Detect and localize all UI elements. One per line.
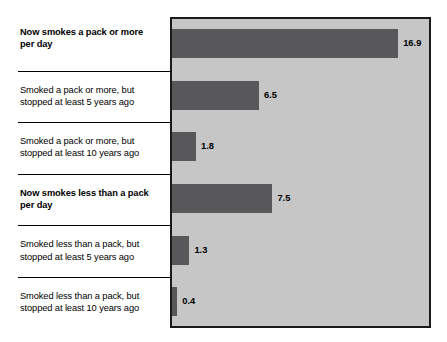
bar-value-label: 1.8 [201, 141, 214, 152]
chart-row: Now smokes a pack or moreper day16.9 [0, 19, 447, 71]
category-label-line: stopped at least 5 years ago [20, 96, 168, 108]
row-divider [18, 225, 172, 226]
category-label-line: Now smokes less than a pack [20, 187, 168, 199]
chart-row: Smoked a pack or more, butstopped at lea… [0, 122, 447, 174]
bar [172, 29, 398, 58]
category-label: Smoked less than a pack, butstopped at l… [20, 238, 168, 262]
chart-row: Smoked less than a pack, butstopped at l… [0, 225, 447, 277]
category-label: Now smokes less than a packper day [20, 187, 168, 211]
bar-value-label: 0.4 [182, 296, 195, 307]
category-label: Smoked a pack or more, butstopped at lea… [20, 84, 168, 108]
category-label: Smoked a pack or more, butstopped at lea… [20, 135, 168, 159]
category-label-line: Smoked a pack or more, but [20, 84, 168, 96]
bar [172, 287, 177, 316]
bar [172, 81, 259, 110]
bar [172, 236, 189, 265]
row-divider [18, 174, 172, 175]
category-label: Smoked less than a pack, butstopped at l… [20, 290, 168, 314]
row-divider [18, 122, 172, 123]
bar [172, 132, 196, 161]
bar-value-label: 16.9 [403, 38, 421, 49]
category-label-line: Smoked less than a pack, but [20, 238, 168, 250]
bar [172, 184, 272, 213]
chart-row: Now smokes less than a packper day7.5 [0, 174, 447, 226]
category-label-line: per day [20, 38, 168, 50]
bar-value-label: 1.3 [194, 245, 207, 256]
category-label-line: per day [20, 199, 168, 211]
row-divider [18, 277, 172, 278]
category-label-line: Smoked a pack or more, but [20, 135, 168, 147]
row-divider [18, 71, 172, 72]
bar-value-label: 6.5 [264, 90, 277, 101]
chart-row: Smoked less than a pack, butstopped at l… [0, 277, 447, 329]
category-label: Now smokes a pack or moreper day [20, 26, 168, 50]
category-label-line: Now smokes a pack or more [20, 26, 168, 38]
bar-value-label: 7.5 [277, 193, 290, 204]
horizontal-bar-chart: Now smokes a pack or moreper day16.9Smok… [0, 0, 447, 342]
category-label-line: Smoked less than a pack, but [20, 290, 168, 302]
category-label-line: stopped at least 10 years ago [20, 147, 168, 159]
chart-row: Smoked a pack or more, butstopped at lea… [0, 71, 447, 123]
category-label-line: stopped at least 5 years ago [20, 251, 168, 263]
category-label-line: stopped at least 10 years ago [20, 302, 168, 314]
